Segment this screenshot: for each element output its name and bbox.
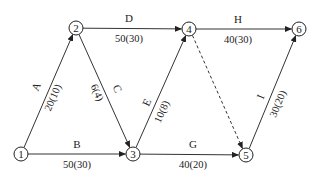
- node-6-label: 6: [296, 23, 302, 35]
- node-4: 4: [182, 22, 196, 36]
- edge-g-arrow: [140, 154, 239, 155]
- network-diagram: A 20(10) B 50(30) C 6(4) D 50(30) E 10(8…: [0, 0, 317, 180]
- edge-c-value: 6(4): [88, 82, 106, 103]
- node-1-label: 1: [18, 148, 24, 160]
- edge-h-value: 40(30): [224, 34, 252, 46]
- edge-e-name: E: [139, 97, 153, 108]
- node-2: 2: [69, 21, 83, 35]
- edge-e-arrow: [136, 36, 186, 148]
- edge-d-name: D: [125, 12, 133, 24]
- edge-h-name: H: [234, 13, 242, 25]
- edge-c-name: C: [111, 83, 125, 95]
- dummy-edge-arrow: [193, 36, 243, 149]
- edge-g-value: 40(20): [179, 159, 207, 171]
- edge-i-name: I: [254, 92, 267, 100]
- node-2-label: 2: [73, 22, 79, 34]
- edge-d-value: 50(30): [115, 33, 143, 45]
- edge-d-arrow: [83, 28, 182, 29]
- edge-e-value: 10(8): [152, 98, 172, 124]
- node-5: 5: [239, 148, 253, 162]
- edge-g-name: G: [189, 138, 197, 150]
- node-3-label: 3: [130, 148, 136, 160]
- node-4-label: 4: [186, 23, 192, 35]
- node-1: 1: [14, 147, 28, 161]
- node-6: 6: [292, 22, 306, 36]
- edge-b-value: 50(30): [63, 159, 91, 171]
- edge-b-name: B: [73, 138, 80, 150]
- edge-i-arrow: [249, 36, 296, 149]
- node-5-label: 5: [243, 149, 249, 161]
- edge-a-arrow: [24, 35, 73, 148]
- node-3: 3: [126, 147, 140, 161]
- edge-c-arrow: [79, 35, 130, 148]
- edge-i-value: 30(20): [267, 88, 289, 119]
- edge-a-name: A: [29, 80, 43, 92]
